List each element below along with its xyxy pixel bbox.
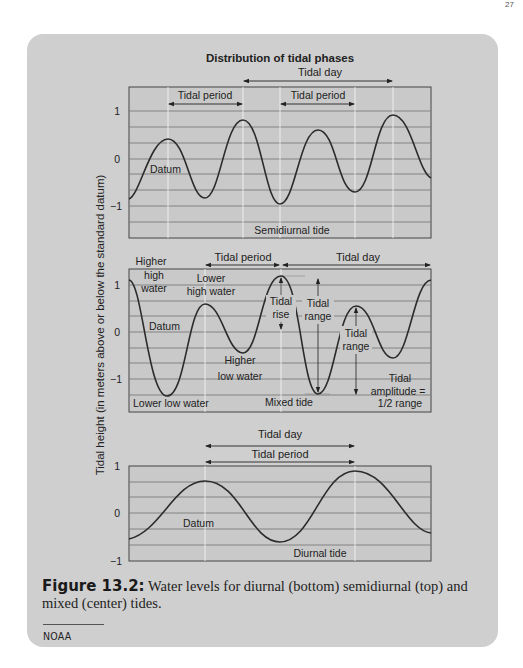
lower-low-water-label: Lower low water: [133, 397, 209, 409]
tidal-day-label: Tidal day: [298, 66, 343, 78]
caption-divider: [43, 624, 104, 625]
image-credit: NOAA: [43, 630, 71, 642]
semidiurnal-label: Semidiurnal tide: [254, 224, 329, 236]
tidal-period-label: Tidal period: [251, 448, 308, 460]
tidal-day-label: Tidal day: [258, 428, 303, 440]
tidal-range-label-2b: range: [343, 340, 370, 352]
diurnal-chart: 1 0 −1 Datum Diurnal tide Tidal day Tida…: [110, 428, 431, 567]
tidal-period-label: Tidal period: [214, 251, 271, 263]
tidal-period-label-1: Tidal period: [178, 89, 233, 101]
figure-number: Figure 13.2:: [42, 577, 145, 595]
tidal-amplitude-label-2: amplitude =: [371, 385, 426, 397]
lower-high-water-label-2: high water: [187, 285, 236, 297]
tick-0: 0: [114, 507, 120, 519]
tidal-day-label: Tidal day: [336, 251, 381, 263]
y-axis-label: Tidal height (in meters above or below t…: [94, 175, 106, 476]
datum-label: Datum: [183, 517, 214, 529]
figure-title: Distribution of tidal phases: [206, 52, 354, 64]
tidal-rise-label-1: Tidal: [270, 295, 292, 307]
tidal-amplitude-label-3: 1/2 range: [378, 397, 423, 409]
tick-minus-1: −1: [110, 200, 122, 212]
tidal-figure: Distribution of tidal phases Tidal heigh…: [0, 0, 523, 668]
tick-1: 1: [114, 460, 120, 472]
tick-1: 1: [114, 279, 120, 291]
diurnal-label: Diurnal tide: [293, 547, 346, 559]
tick-1: 1: [114, 105, 120, 117]
tidal-range-label-1b: range: [305, 310, 332, 322]
figure-caption: Figure 13.2: Water levels for diurnal (b…: [42, 578, 482, 612]
higher-high-water-label-1: Higher: [136, 255, 167, 267]
lower-high-water-label-1: Lower: [197, 272, 226, 284]
higher-low-water-label-1: Higher: [225, 354, 256, 366]
tick-minus-1: −1: [110, 555, 122, 567]
tidal-range-label-2a: Tidal: [345, 327, 367, 339]
tidal-period-label-2: Tidal period: [291, 89, 346, 101]
tick-0: 0: [114, 153, 120, 165]
semidiurnal-chart: 1 0 −1 Datum Semidiurnal tide Tidal day …: [110, 66, 431, 238]
mixed-label: Mixed tide: [265, 396, 313, 408]
tidal-amplitude-label-1: Tidal: [389, 372, 411, 384]
higher-high-water-label-2: high: [144, 269, 164, 281]
datum-label: Datum: [149, 320, 180, 332]
mixed-chart: 1 0 −1 Higher high water Lower high wate…: [110, 251, 431, 412]
higher-low-water-label-2: low water: [218, 370, 263, 382]
tick-minus-1: −1: [110, 373, 122, 385]
tidal-rise-label-2: rise: [273, 308, 290, 320]
tick-0: 0: [114, 326, 120, 338]
higher-high-water-label-3: water: [140, 282, 167, 294]
tidal-range-label-1a: Tidal: [307, 297, 329, 309]
datum-label: Datum: [150, 163, 181, 175]
